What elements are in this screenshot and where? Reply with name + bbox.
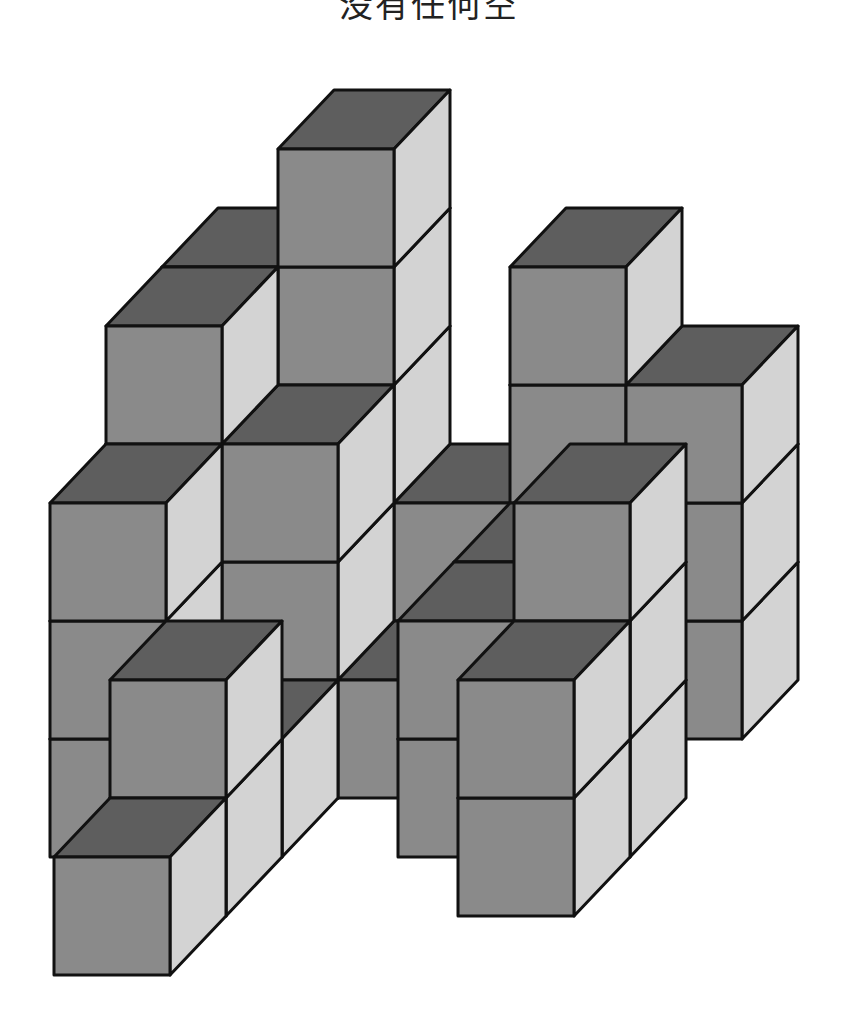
- cube-front-face: [458, 798, 574, 916]
- page: 没有任何空: [0, 0, 858, 1035]
- cube-front-face: [54, 857, 170, 975]
- cube-front-face: [510, 267, 626, 385]
- cube-front-face: [110, 680, 226, 798]
- cube-front-face: [514, 503, 630, 621]
- cube-front-face: [278, 149, 394, 267]
- cube-front-face: [106, 326, 222, 444]
- cube-front-face: [278, 267, 394, 385]
- cubes-group: [50, 90, 798, 975]
- cube-stack-figure: [0, 0, 858, 1035]
- cube-front-face: [50, 503, 166, 621]
- cube-front-face: [222, 444, 338, 562]
- cube-front-face: [458, 680, 574, 798]
